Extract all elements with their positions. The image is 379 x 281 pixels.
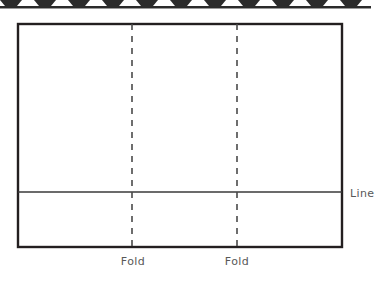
fold-diagram-graphic: [0, 0, 379, 281]
fold-label-right: Fold: [207, 255, 267, 268]
fold-diagram: [0, 0, 379, 281]
sheet-rectangle: [18, 24, 342, 247]
fold-label-left: Fold: [103, 255, 163, 268]
line-label: Line: [350, 187, 375, 200]
